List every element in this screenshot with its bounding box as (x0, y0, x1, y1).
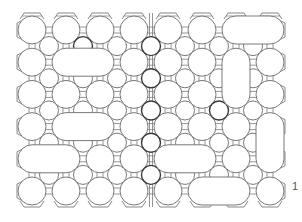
vertical-slot-hole (222, 48, 250, 108)
perforated-plate-drawing (0, 0, 302, 222)
horizontal-slot-hole (52, 48, 114, 76)
horizontal-slot-hole (52, 113, 114, 141)
horizontal-slot-hole (154, 145, 216, 173)
small-hole (176, 69, 195, 88)
small-hole (142, 69, 161, 88)
vertical-slot-hole (256, 113, 284, 173)
small-hole (176, 37, 195, 56)
small-hole (142, 101, 161, 120)
small-hole (176, 101, 195, 120)
horizontal-slot-hole (18, 145, 80, 173)
reference-numeral: 1 (292, 180, 298, 192)
small-hole (108, 165, 127, 184)
small-hole (142, 37, 161, 56)
horizontal-slot-hole (222, 16, 284, 44)
horizontal-slot-hole (188, 177, 250, 205)
